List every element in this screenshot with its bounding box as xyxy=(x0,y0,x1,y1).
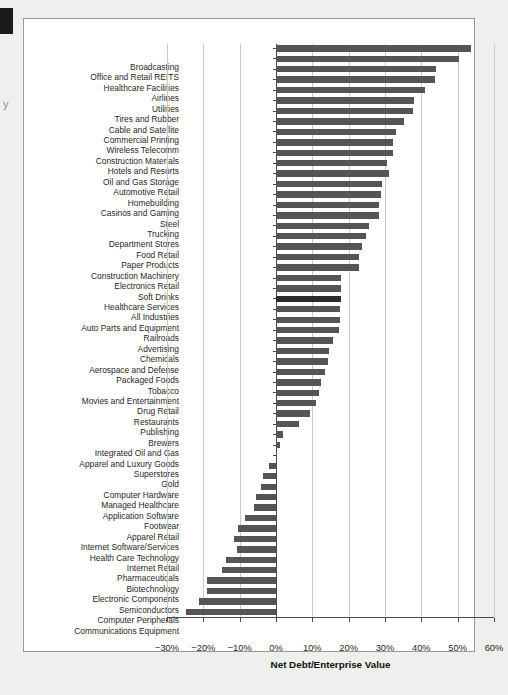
row-tickmark xyxy=(273,298,276,299)
bar xyxy=(186,609,276,615)
row-tickmark xyxy=(273,340,276,341)
row-tickmark xyxy=(273,246,276,247)
bar xyxy=(276,400,316,406)
bar-row xyxy=(167,201,494,211)
bar xyxy=(276,45,471,51)
row-tickmark xyxy=(273,497,276,498)
bar-row xyxy=(167,305,494,315)
figure-frame: BroadcastingOffice and Retail REITSHealt… xyxy=(23,18,475,652)
bar xyxy=(276,139,393,145)
bar-row xyxy=(167,284,494,294)
x-tick-label: 30% xyxy=(376,643,395,653)
margin-caption: y xyxy=(3,98,9,110)
tickmark-60 xyxy=(494,618,495,622)
tickmark-40 xyxy=(421,618,422,622)
bar xyxy=(238,525,276,531)
y-axis-label: Aerospace and Defense xyxy=(89,365,179,375)
bar xyxy=(276,358,328,364)
bar-row xyxy=(167,180,494,190)
bar xyxy=(276,108,413,114)
bar xyxy=(276,254,359,260)
bar-row xyxy=(167,597,494,607)
x-tick-label: −10% xyxy=(228,643,252,653)
row-tickmark xyxy=(273,236,276,237)
row-tickmark xyxy=(273,319,276,320)
row-tickmark xyxy=(273,142,276,143)
x-tick-label: 60% xyxy=(485,643,504,653)
bar xyxy=(207,577,276,583)
bar xyxy=(276,97,414,103)
y-axis-label: Construction Machinery xyxy=(91,271,179,281)
row-tickmark xyxy=(273,549,276,550)
row-tickmark xyxy=(273,111,276,112)
row-tickmark xyxy=(273,539,276,540)
x-tick-label: 40% xyxy=(412,643,431,653)
x-tick-label: 50% xyxy=(448,643,467,653)
bar-row xyxy=(167,472,494,482)
row-tickmark xyxy=(273,330,276,331)
row-tickmark xyxy=(273,372,276,373)
row-tickmark xyxy=(273,403,276,404)
bar xyxy=(276,296,341,302)
x-tick-label: 20% xyxy=(339,643,358,653)
bar xyxy=(276,317,340,323)
bar-row xyxy=(167,148,494,158)
bar xyxy=(276,369,325,375)
bar xyxy=(276,212,379,218)
x-axis-line xyxy=(167,617,494,618)
bar-row xyxy=(167,159,494,169)
bar xyxy=(276,452,277,458)
bar xyxy=(276,66,436,72)
row-tickmark xyxy=(273,413,276,414)
bar-row xyxy=(167,535,494,545)
row-tickmark xyxy=(273,288,276,289)
bar xyxy=(276,87,425,93)
bar-row xyxy=(167,232,494,242)
bar-row xyxy=(167,388,494,398)
bar-row xyxy=(167,493,494,503)
y-axis-category-labels: BroadcastingOffice and Retail REITSHealt… xyxy=(24,62,188,636)
row-tickmark xyxy=(273,392,276,393)
bar xyxy=(276,379,321,385)
y-axis-label: Communications Equipment xyxy=(74,626,179,636)
bar-row xyxy=(167,75,494,85)
row-tickmark xyxy=(273,184,276,185)
tickmark-20 xyxy=(349,618,350,622)
y-axis-label: Movies and Entertainment xyxy=(82,396,179,406)
bar xyxy=(276,421,299,427)
row-tickmark xyxy=(273,434,276,435)
bar-row xyxy=(167,555,494,565)
gridline-60 xyxy=(494,44,495,618)
bar-row xyxy=(167,326,494,336)
row-tickmark xyxy=(273,163,276,164)
row-tickmark xyxy=(273,173,276,174)
bar xyxy=(276,243,362,249)
bar xyxy=(207,588,276,594)
row-tickmark xyxy=(273,591,276,592)
bar xyxy=(276,202,379,208)
bar-row xyxy=(167,138,494,148)
bar xyxy=(276,170,389,176)
bar-row xyxy=(167,420,494,430)
bar xyxy=(276,337,333,343)
row-tickmark xyxy=(273,580,276,581)
bar xyxy=(276,76,435,82)
bar-row xyxy=(167,44,494,54)
bar-row xyxy=(167,169,494,179)
y-axis-label: Auto Parts and Equipment xyxy=(81,323,179,333)
bar xyxy=(237,546,276,552)
bar xyxy=(276,191,381,197)
bar-row xyxy=(167,399,494,409)
bar-row xyxy=(167,357,494,367)
bar-row xyxy=(167,117,494,127)
y-axis-label: Office and Retail REITS xyxy=(90,72,179,82)
row-tickmark xyxy=(273,90,276,91)
bar-row xyxy=(167,409,494,419)
row-tickmark xyxy=(273,361,276,362)
bar-row xyxy=(167,294,494,304)
row-tickmark xyxy=(273,257,276,258)
bar-row xyxy=(167,65,494,75)
bar-row xyxy=(167,221,494,231)
row-tickmark xyxy=(273,58,276,59)
row-tickmark xyxy=(273,445,276,446)
